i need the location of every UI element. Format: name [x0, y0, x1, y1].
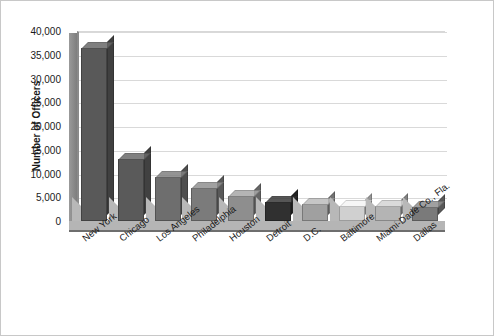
- bar-front-face: [81, 48, 107, 221]
- bar[interactable]: [81, 48, 107, 221]
- y-tick-label: 30,000: [13, 73, 61, 84]
- y-tick-label: 15,000: [13, 144, 61, 155]
- bar-side-face: [107, 35, 114, 215]
- y-axis-tick-labels: 05,00010,00015,00020,00025,00030,00035,0…: [13, 1, 61, 336]
- bar-slot: [118, 31, 155, 221]
- bar-series: [77, 31, 445, 221]
- y-tick-label: 35,000: [13, 49, 61, 60]
- y-tick-label: 40,000: [13, 26, 61, 37]
- y-tick-label: 5,000: [13, 192, 61, 203]
- bar-slot: [191, 31, 228, 221]
- bar-front-face: [155, 177, 181, 221]
- bar-front-face: [118, 159, 144, 221]
- bar[interactable]: [155, 177, 181, 221]
- bar-slot: [265, 31, 302, 221]
- y-tick-label: 20,000: [13, 121, 61, 132]
- bar-slot: [81, 31, 118, 221]
- bar[interactable]: [302, 204, 328, 221]
- x-axis-tick-labels: New YorkChicagoLos AngelesPhiladelphiaHo…: [67, 233, 487, 333]
- chart-figure: Number of Officers 05,00010,00015,00020,…: [0, 0, 494, 336]
- y-tick-label: 25,000: [13, 97, 61, 108]
- bar-slot: [155, 31, 192, 221]
- bar[interactable]: [118, 159, 144, 221]
- plot-area: [67, 31, 445, 231]
- y-tick-label: 0: [13, 216, 61, 227]
- bar-front-face: [302, 204, 328, 221]
- bar-slot: [228, 31, 265, 221]
- y-tick-label: 10,000: [13, 168, 61, 179]
- bar-slot: [375, 31, 412, 221]
- bar-slot: [339, 31, 376, 221]
- bar-slot: [302, 31, 339, 221]
